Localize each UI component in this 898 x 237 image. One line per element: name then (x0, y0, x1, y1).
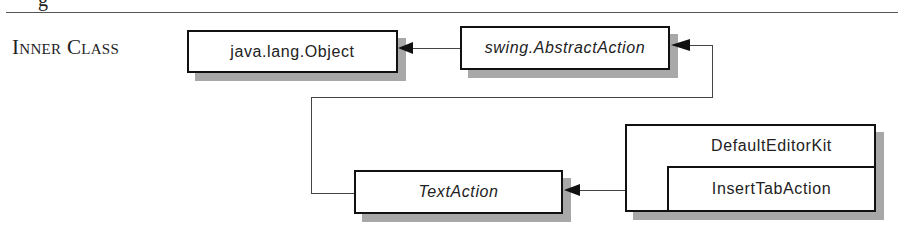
arrowhead-icon (564, 184, 580, 196)
arrowheads (0, 0, 898, 237)
arrowhead-icon (398, 42, 413, 54)
arrowhead-icon (671, 39, 690, 51)
